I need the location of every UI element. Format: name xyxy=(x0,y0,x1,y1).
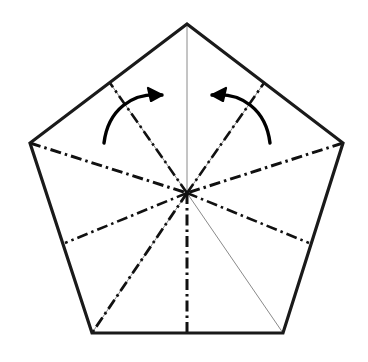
diagram-background xyxy=(0,0,368,362)
diagram-canvas xyxy=(0,0,368,362)
pentagon-fold-diagram xyxy=(0,0,368,362)
